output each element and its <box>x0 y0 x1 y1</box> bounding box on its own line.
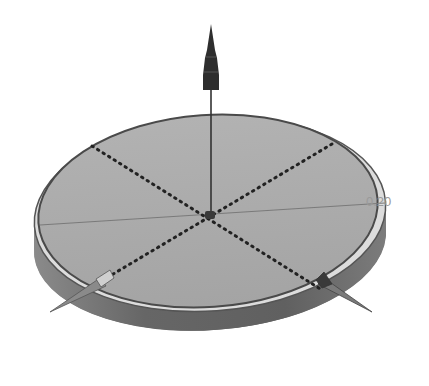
center-point <box>205 211 215 219</box>
dimension-label: 0.20 <box>366 194 391 209</box>
cad-viewport: 0.20 <box>0 0 429 386</box>
disc-diagram <box>0 0 429 386</box>
